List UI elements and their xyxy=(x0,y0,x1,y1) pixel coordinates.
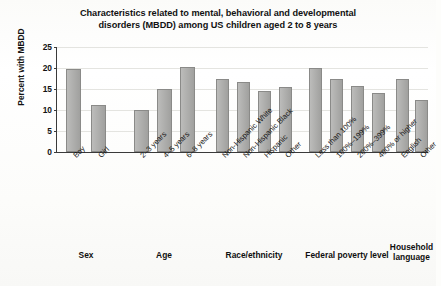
bar-group xyxy=(59,47,113,152)
chart-title: Characteristics related to mental, behav… xyxy=(0,8,436,31)
y-axis-label: Percent with MBDD xyxy=(16,12,26,122)
y-axis-tick-label: 25 xyxy=(43,42,52,52)
x-axis-category-labels: BoyGirl2–3 years4–5 years6–8 yearsNon-Hi… xyxy=(57,154,428,216)
bar[interactable] xyxy=(216,79,229,153)
y-axis-tick-label: 10 xyxy=(43,105,52,115)
y-axis-tick-label: 15 xyxy=(43,84,52,94)
y-axis-tick-label: 5 xyxy=(47,126,52,136)
chart-title-line-2: disorders (MBDD) among US children aged … xyxy=(0,20,436,32)
group-titles: SexAgeRace/ethnicityFederal poverty leve… xyxy=(0,250,436,280)
y-axis-tick-label: 20 xyxy=(43,63,52,73)
bar[interactable] xyxy=(66,69,81,152)
chart-title-line-1: Characteristics related to mental, behav… xyxy=(80,8,356,18)
y-axis-tick-mark xyxy=(54,152,57,153)
y-axis-tick-label: 0 xyxy=(47,147,52,157)
bar[interactable] xyxy=(309,68,322,152)
group-title: Household language xyxy=(357,242,441,262)
